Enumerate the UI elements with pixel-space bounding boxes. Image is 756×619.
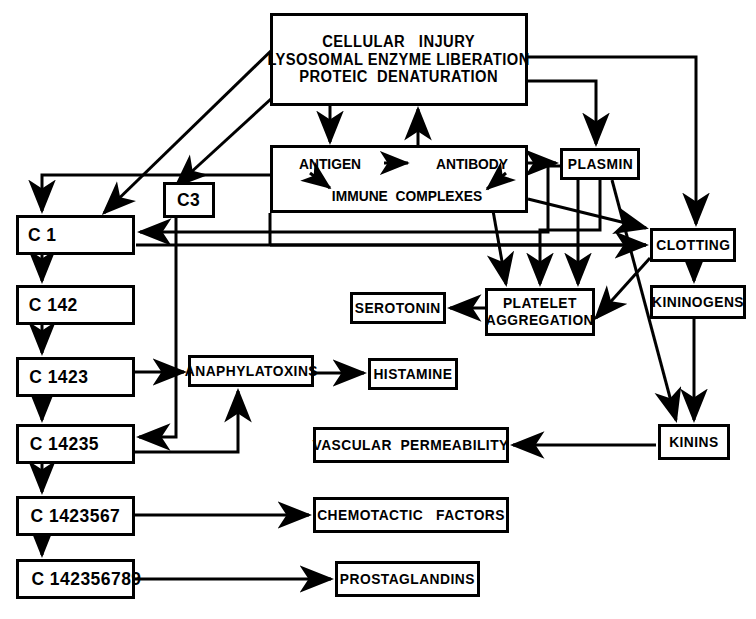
pathway-diagram: CELLULAR INJURY LYSOSOMAL ENZYME LIBERAT… <box>0 0 756 619</box>
arrow-antigen-to-immune-complexes <box>310 173 330 188</box>
inline-arrow-layer <box>0 0 756 619</box>
arrow-antibody-to-immune-complexes <box>487 173 506 189</box>
